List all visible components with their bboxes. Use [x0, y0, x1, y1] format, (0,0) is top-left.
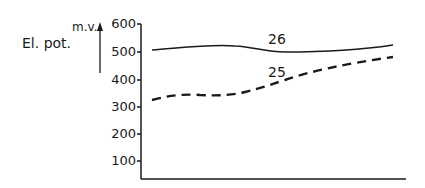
series-26-label: 26 [268, 32, 286, 46]
y-tick-200: 200 [96, 127, 136, 140]
y-tick-100: 100 [96, 154, 136, 167]
y-tick-300: 300 [96, 100, 136, 113]
line-chart: El. pot. m.v. 600 500 400 300 200 100 26… [0, 0, 425, 188]
chart-canvas [0, 0, 425, 188]
y-tick-600: 600 [96, 17, 136, 30]
y-unit-label: m.v. [72, 21, 98, 33]
series-25-label: 25 [268, 65, 286, 79]
y-tick-400: 400 [96, 73, 136, 86]
y-tick-500: 500 [96, 45, 136, 58]
y-axis-label: El. pot. [22, 36, 71, 50]
